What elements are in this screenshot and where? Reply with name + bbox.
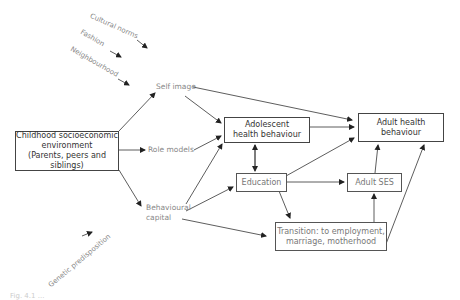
genetic-arrow — [82, 232, 92, 236]
node-text: Transition: to employment, — [277, 227, 385, 237]
node-text: (Parents, peers and siblings) — [16, 151, 118, 171]
node-text: Education — [242, 178, 282, 188]
node-adult-health-behaviour: Adult health behaviour — [358, 113, 444, 142]
node-self-image: Self image — [156, 82, 196, 92]
node-text: behaviour — [381, 128, 421, 138]
node-adult-ses: Adult SES — [347, 173, 402, 192]
node-text: Adult health — [377, 118, 426, 128]
node-text: Behavioural — [146, 203, 191, 213]
neighbourhood-arrow — [118, 79, 129, 85]
node-text: capital — [146, 213, 191, 223]
node-text: environment — [42, 141, 93, 151]
node-text: marriage, motherhood — [286, 237, 376, 247]
node-role-models: Role models — [148, 145, 194, 155]
node-text: Adult SES — [355, 178, 394, 188]
node-text: health behaviour — [233, 130, 301, 140]
fashion-arrow — [110, 51, 121, 57]
node-childhood-environment: Childhood socioeconomic environment (Par… — [15, 131, 119, 171]
node-text: Childhood socioeconomic — [16, 131, 118, 141]
node-behavioural-capital: Behavioural capital — [146, 203, 191, 223]
cultural-arrow — [137, 40, 147, 48]
node-text: Adolescent — [245, 120, 289, 130]
node-adolescent-health-behaviour: Adolescent health behaviour — [224, 117, 310, 143]
node-education: Education — [236, 173, 287, 192]
node-transition: Transition: to employment, marriage, mot… — [275, 222, 387, 251]
figure-caption: Fig. 4.1 ... — [10, 292, 44, 300]
